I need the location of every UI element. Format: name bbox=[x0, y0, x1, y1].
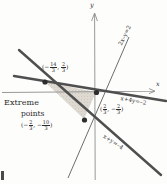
vertex-label-bottom: (−23, −103) bbox=[21, 120, 52, 131]
extreme-points-title: Extreme bbox=[4, 99, 39, 107]
minus-sign: − bbox=[37, 121, 42, 128]
paren-close: ) bbox=[66, 63, 68, 70]
graph-screenshot: (−143, 23) (23, −23) Extreme points (−23… bbox=[0, 0, 167, 184]
vertex-bottom-right-dot bbox=[94, 90, 99, 95]
vertex-label-bottom-right: (23, −23) bbox=[100, 104, 123, 115]
paren-close: ) bbox=[121, 105, 123, 112]
paren-close: ) bbox=[50, 121, 52, 128]
minus-sign: − bbox=[111, 105, 116, 112]
fraction-14-3: 143 bbox=[50, 62, 57, 73]
minus-sign: − bbox=[23, 121, 28, 128]
vertex-label-top-left: (−143, 23) bbox=[42, 62, 68, 73]
comma: , bbox=[57, 63, 59, 70]
x-axis-label: x bbox=[156, 81, 160, 88]
extreme-points-subtitle: points bbox=[21, 110, 44, 118]
coordinate-plot bbox=[0, 0, 167, 184]
comma: , bbox=[33, 121, 35, 128]
fraction-2-3: 23 bbox=[61, 62, 65, 73]
y-axis-label: y bbox=[90, 2, 94, 9]
vertex-bottom-dot bbox=[82, 117, 87, 122]
minus-sign: − bbox=[44, 63, 49, 70]
vertex-top-left-dot bbox=[42, 79, 47, 84]
page-corner-mark bbox=[1, 171, 4, 180]
fraction-neg2-3: 23 bbox=[116, 104, 120, 115]
fraction-10-3: 103 bbox=[42, 120, 49, 131]
comma: , bbox=[107, 105, 109, 112]
